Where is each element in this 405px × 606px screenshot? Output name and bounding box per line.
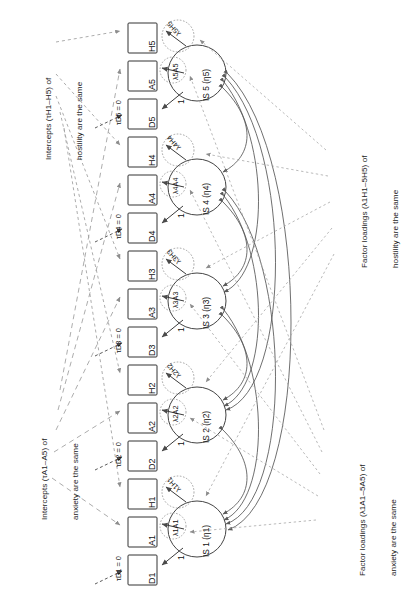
factor-label-IS4: IS 4 (η4) — [201, 183, 211, 215]
indicator-label-A1: A1 — [147, 535, 157, 546]
loading-label-l2A2: λ2A2 — [171, 406, 180, 422]
annotation-line-1: Intercepts (τA1–A5) of — [40, 439, 50, 520]
fixed-loading-1-IS3: 1 — [176, 327, 186, 332]
annotation-line-2: anxiety are the same — [389, 464, 399, 576]
indicator-label-H4: H4 — [147, 154, 157, 166]
indicator-label-H3: H3 — [147, 268, 157, 280]
annotation-line-2: hostility are the same — [391, 155, 401, 268]
indicator-label-D5: D5 — [147, 116, 157, 128]
tau-label-D1: τD1 = 0 — [114, 556, 123, 581]
indicator-label-A3: A3 — [147, 307, 157, 318]
factor-covariance-arcs — [223, 74, 291, 530]
loading-label-l4A4: λ4A4 — [171, 178, 180, 194]
loading-label-l5A5: λ5A5 — [171, 64, 180, 80]
indicator-label-D4: D4 — [147, 230, 157, 242]
indicator-label-H5: H5 — [147, 40, 157, 52]
annotation-line-1: Factor loadings (λ1A1–5A5) of — [358, 464, 368, 576]
indicator-label-D3: D3 — [147, 344, 157, 356]
tau-label-D4: τD4 = 0 — [114, 214, 123, 239]
annotation-intercepts-hostility: Intercepts (τH1–H5) of hostility are the… — [24, 78, 105, 160]
annotation-line-1: Intercepts (τH1–H5) of — [44, 78, 54, 160]
loading-label-l1A1: λ1A1 — [171, 520, 180, 536]
factor-label-IS3: IS 3 (η3) — [201, 297, 211, 329]
annotation-intercepts-anxiety: Intercepts (τA1–A5) of anxiety are the s… — [20, 439, 101, 520]
fixed-loading-1-IS5: 1 — [176, 99, 186, 104]
fixed-loading-1-IS2: 1 — [176, 441, 186, 446]
factor-label-IS2: IS 2 (η2) — [201, 411, 211, 443]
fixed-loading-1-IS1: 1 — [176, 555, 186, 560]
indicator-label-A4: A4 — [147, 193, 157, 204]
annotation-line-2: hostility are the same — [75, 78, 85, 160]
tau-label-D3: τD3 = 0 — [114, 328, 123, 353]
indicator-label-A5: A5 — [147, 79, 157, 90]
fixed-loading-1-IS4: 1 — [176, 213, 186, 218]
indicator-label-D2: D2 — [147, 458, 157, 470]
indicator-label-H2: H2 — [147, 382, 157, 394]
indicator-label-D1: D1 — [147, 572, 157, 584]
tau-label-D5: τD5 = 0 — [114, 100, 123, 125]
annotation-line-1: Factor loadings (λ1H1–5H5) of — [360, 155, 370, 268]
indicator-label-A2: A2 — [147, 421, 157, 432]
factor-label-IS1: IS 1 (η1) — [201, 525, 211, 557]
factor-label-IS5: IS 5 (η5) — [201, 69, 211, 101]
tau-label-D2: τD2 = 0 — [114, 442, 123, 467]
loading-label-l3A3: λ3A3 — [171, 292, 180, 308]
annotation-loadings-anxiety: Factor loadings (λ1A1–5A5) of anxiety ar… — [338, 464, 405, 576]
indicator-label-H1: H1 — [147, 496, 157, 508]
annotation-line-2: anxiety are the same — [71, 439, 81, 520]
annotation-loadings-hostility: Factor loadings (λ1H1–5H5) of hostility … — [340, 155, 405, 268]
